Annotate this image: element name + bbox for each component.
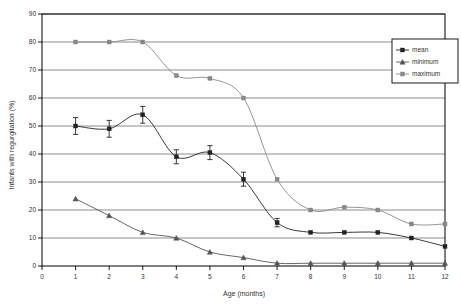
chart-container: 0123456789101112 0102030405060708090 mea… xyxy=(0,0,461,304)
data-point-maximum xyxy=(376,208,380,212)
data-point-maximum xyxy=(309,208,313,212)
x-tick-label: 10 xyxy=(374,273,382,280)
data-point-maximum xyxy=(107,40,111,44)
data-point-mean xyxy=(376,230,380,234)
x-tick-label: 4 xyxy=(175,273,179,280)
data-point-mean xyxy=(409,236,413,240)
x-tick-label: 11 xyxy=(408,273,415,280)
data-point-maximum xyxy=(275,177,279,181)
y-axis-tick-labels: 0102030405060708090 xyxy=(29,10,37,269)
series-maximum xyxy=(74,40,447,226)
data-point-maximum xyxy=(174,74,178,78)
x-tick-label: 6 xyxy=(242,273,246,280)
legend-item-minimum[interactable]: minimum xyxy=(396,58,438,65)
x-tick-label: 7 xyxy=(275,273,279,280)
y-tick-label: 0 xyxy=(32,262,36,269)
data-point-maximum xyxy=(242,96,246,100)
regurgitation-line-chart: 0123456789101112 0102030405060708090 mea… xyxy=(0,0,461,304)
x-tick-label: 9 xyxy=(342,273,346,280)
y-tick-label: 60 xyxy=(29,94,37,101)
series-line-maximum xyxy=(76,40,445,226)
plot-frame xyxy=(42,14,445,266)
data-point-mean xyxy=(141,113,145,117)
legend-marker-maximum xyxy=(401,72,405,76)
x-tick-label: 0 xyxy=(40,273,44,280)
y-tick-label: 80 xyxy=(29,38,37,45)
data-point-mean xyxy=(107,127,111,131)
data-point-minimum xyxy=(107,213,112,218)
data-point-mean xyxy=(275,221,279,225)
data-point-minimum xyxy=(73,196,78,201)
y-axis-ticks xyxy=(38,14,42,266)
y-tick-label: 90 xyxy=(29,10,37,17)
x-axis-tick-labels: 0123456789101112 xyxy=(40,273,449,280)
y-tick-label: 10 xyxy=(29,234,37,241)
chart-legend: meanminimummaximum xyxy=(392,39,458,83)
data-point-maximum xyxy=(443,222,447,226)
x-tick-label: 2 xyxy=(107,273,111,280)
data-series-layer xyxy=(73,40,448,266)
x-tick-label: 3 xyxy=(141,273,145,280)
data-point-mean xyxy=(174,155,178,159)
x-tick-label: 5 xyxy=(208,273,212,280)
data-point-maximum xyxy=(409,222,413,226)
data-point-mean xyxy=(309,230,313,234)
data-point-mean xyxy=(342,230,346,234)
y-tick-label: 40 xyxy=(29,150,37,157)
series-minimum xyxy=(73,196,448,265)
series-line-mean xyxy=(76,114,445,246)
data-point-maximum xyxy=(141,40,145,44)
y-tick-label: 50 xyxy=(29,122,37,129)
x-tick-label: 12 xyxy=(441,273,449,280)
x-tick-label: 8 xyxy=(309,273,313,280)
data-point-mean xyxy=(443,244,447,248)
data-point-maximum xyxy=(342,205,346,209)
series-line-minimum xyxy=(76,199,445,264)
x-tick-label: 1 xyxy=(74,273,78,280)
data-point-maximum xyxy=(74,40,78,44)
legend-label: mean xyxy=(412,46,429,53)
data-point-maximum xyxy=(208,76,212,80)
x-axis-ticks xyxy=(42,266,445,270)
y-tick-label: 30 xyxy=(29,178,37,185)
x-axis-title: Age (months) xyxy=(223,290,265,298)
data-point-mean xyxy=(208,151,212,155)
data-point-mean xyxy=(74,124,78,128)
y-axis-title: Infants with regurgitation (%) xyxy=(8,100,16,189)
legend-label: maximum xyxy=(412,70,440,77)
y-tick-label: 70 xyxy=(29,66,37,73)
series-mean xyxy=(73,106,447,248)
legend-label: minimum xyxy=(412,58,438,65)
data-point-mean xyxy=(242,177,246,181)
legend-marker-mean xyxy=(401,48,405,52)
grid-lines xyxy=(42,14,445,238)
y-tick-label: 20 xyxy=(29,206,37,213)
